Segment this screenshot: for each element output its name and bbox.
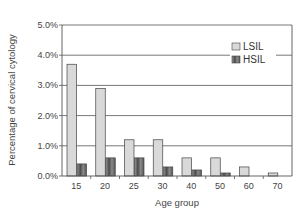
bar-lsil (240, 167, 250, 176)
bar-hsil (135, 158, 145, 176)
y-tick-label: 2.0% (37, 111, 58, 121)
x-axis-label: Age group (155, 197, 199, 208)
legend-swatch-hsil (232, 56, 240, 63)
legend-swatch-lsil (232, 43, 240, 50)
bar-hsil (221, 173, 231, 176)
bar-lsil (67, 64, 77, 176)
bar-lsil (182, 158, 192, 176)
legend: LSILHSIL (230, 38, 276, 68)
y-tick-label: 3.0% (37, 80, 58, 90)
bar-lsil (268, 173, 278, 176)
x-tick-label: 30 (158, 181, 168, 191)
x-tick-label: 40 (186, 181, 196, 191)
bars (67, 64, 278, 176)
bar-hsil (106, 158, 116, 176)
legend-label-lsil: LSIL (243, 41, 264, 52)
bar-lsil (153, 140, 163, 176)
x-tick-label: 50 (215, 181, 225, 191)
bar-lsil (125, 140, 135, 176)
bar-lsil (96, 88, 106, 176)
x-tick-label: 60 (244, 181, 254, 191)
y-tick-label: 4.0% (37, 50, 58, 60)
bar-hsil (192, 170, 202, 176)
bar-hsil (77, 164, 87, 176)
bar-chart: 0.0%1.0%2.0%3.0%4.0%5.0%1520253040506070… (0, 0, 304, 217)
x-tick-label: 25 (129, 181, 139, 191)
bar-hsil (163, 167, 173, 176)
y-tick-label: 1.0% (37, 141, 58, 151)
y-tick-label: 5.0% (37, 20, 58, 30)
x-tick-label: 20 (100, 181, 110, 191)
y-tick-label: 0.0% (37, 171, 58, 181)
legend-label-hsil: HSIL (243, 54, 266, 65)
x-tick-label: 15 (71, 181, 81, 191)
y-axis-label: Percentage of cervical cytology (6, 34, 17, 166)
bar-lsil (211, 158, 221, 176)
x-tick-label: 70 (273, 181, 283, 191)
